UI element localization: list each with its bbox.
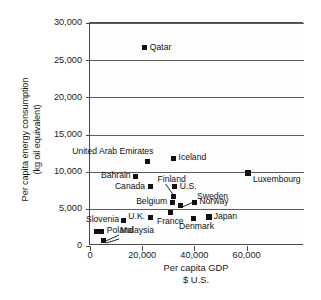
data-point-marker: [172, 184, 177, 189]
y-axis-tick-label: 0: [12, 241, 82, 250]
data-point-marker: [145, 159, 150, 164]
data-point-label: Belgium: [136, 197, 167, 207]
data-point-label: Malaysia: [120, 226, 154, 236]
data-point-label: U.K.: [128, 212, 145, 222]
x-axis-title-line2: $ U.S.: [89, 274, 303, 286]
data-point-marker: [94, 229, 99, 234]
gridline-y: [90, 60, 304, 61]
data-point-label: Qatar: [150, 43, 172, 53]
data-point-marker: [171, 156, 176, 161]
y-axis-tick-label: 5,000: [12, 204, 82, 213]
data-point-marker: [148, 215, 153, 220]
data-point-label: Japan: [214, 212, 237, 222]
data-point-label: Iceland: [179, 153, 207, 163]
data-point-marker: [206, 214, 212, 220]
x-axis-title-line1: Per capita GDP: [163, 262, 228, 273]
y-axis-tick: [86, 135, 90, 136]
data-point-label: Norway: [199, 197, 228, 207]
gridline-y: [90, 135, 304, 136]
y-axis-tick: [86, 209, 90, 210]
plot-area: 05,00010,00015,00020,00025,00030,000020,…: [89, 22, 303, 245]
data-point-marker: [178, 203, 183, 208]
data-point-marker: [101, 238, 106, 243]
data-point-label: Finland: [158, 175, 186, 185]
y-axis-tick: [86, 97, 90, 98]
data-point-marker: [245, 170, 251, 176]
data-point-label: United Arab Emirates: [72, 147, 153, 157]
y-axis-tick: [86, 60, 90, 61]
y-axis-tick-label: 10,000: [12, 167, 82, 176]
data-point-marker: [191, 216, 196, 221]
y-axis-tick: [86, 23, 90, 24]
data-point-marker: [133, 174, 138, 179]
x-axis-tick-label: 60,000: [212, 251, 282, 260]
data-point-marker: [121, 218, 126, 223]
y-axis-tick-label: 25,000: [12, 56, 82, 65]
y-axis-tick-label: 30,000: [12, 18, 82, 27]
data-point-label: Canada: [115, 182, 145, 192]
gridline-y: [90, 97, 304, 98]
data-point-marker: [170, 200, 175, 205]
scatter-chart-figure: Per capita energy consumption (kg oil eq…: [0, 0, 321, 300]
x-axis-title: Per capita GDP $ U.S.: [89, 262, 303, 286]
gridline-y: [90, 209, 304, 210]
data-point-marker: [192, 200, 197, 205]
y-axis-tick-label: 20,000: [12, 93, 82, 102]
data-point-marker: [99, 229, 104, 234]
data-point-marker: [168, 210, 173, 215]
data-point-marker: [148, 184, 153, 189]
gridline-y: [90, 23, 304, 24]
data-point-label: Denmark: [179, 222, 214, 232]
data-point-label: Luxembourg: [253, 175, 301, 185]
data-point-label: Slovenia: [86, 215, 119, 225]
y-axis-tick: [86, 172, 90, 173]
y-axis-tick-label: 15,000: [12, 130, 82, 139]
data-point-marker: [142, 45, 147, 50]
